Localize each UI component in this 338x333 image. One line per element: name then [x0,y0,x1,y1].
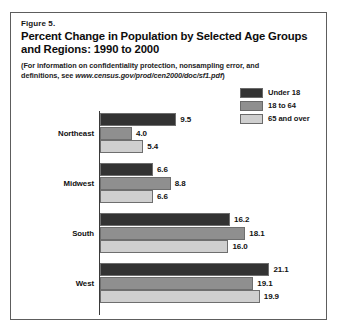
bar-value-label: 16.2 [234,215,249,224]
bar-west-under-18 [100,263,269,276]
region-axis-label: South [11,229,94,238]
bar-row: 6.6 [100,163,326,176]
bar-south-under-18 [100,213,230,226]
bar-row: 16.0 [100,240,326,253]
region-axis-label: Northeast [11,129,94,138]
bar-value-label: 6.6 [157,192,168,201]
bar-midwest-65-and-over [100,190,153,203]
bar-row: 9.5 [100,113,326,126]
bar-value-label: 4.0 [136,129,147,138]
bar-south-65-and-over [100,240,228,253]
figure-title: Percent Change in Population by Selected… [21,30,311,57]
bar-row: 16.2 [100,213,326,226]
bar-midwest-under-18 [100,163,153,176]
bar-west-65-and-over [100,290,260,303]
bar-south-18-to-64 [100,227,245,240]
bar-value-label: 5.4 [147,142,158,151]
bar-value-label: 8.8 [175,179,186,188]
figure-note-suffix: ) [222,71,224,80]
bar-row: 19.9 [100,290,326,303]
bar-row: 5.4 [100,140,326,153]
figure-note-url: www.census.gov/prod/cen2000/doc/sf1.pdf [75,71,222,80]
legend-item: Under 18 [240,87,318,99]
bar-row: 4.0 [100,127,326,140]
region-group: West21.119.119.9 [11,263,326,303]
bar-value-label: 19.1 [257,279,272,288]
bar-northeast-65-and-over [100,140,143,153]
bar-row: 6.6 [100,190,326,203]
bar-row: 18.1 [100,227,326,240]
bar-value-label: 21.1 [273,265,288,274]
region-group: South16.218.116.0 [11,213,326,253]
bar-value-label: 16.0 [232,242,247,251]
bar-row: 21.1 [100,263,326,276]
figure-frame: Figure 5. Percent Change in Population b… [10,12,327,320]
chart-plot-area: Northeast9.54.05.4Midwest6.68.86.6South1… [11,109,326,319]
bar-row: 19.1 [100,277,326,290]
bar-west-18-to-64 [100,277,253,290]
figure-number: Figure 5. [21,19,55,28]
figure-source-note: (For information on confidentiality prot… [21,61,281,80]
bar-value-label: 19.9 [264,292,279,301]
legend-item-label: Under 18 [268,88,300,97]
bar-value-label: 6.6 [157,165,168,174]
region-axis-label: Midwest [11,179,94,188]
bar-row: 8.8 [100,177,326,190]
region-group: Midwest6.68.86.6 [11,163,326,203]
bar-midwest-18-to-64 [100,177,171,190]
legend-swatch-icon [240,88,263,98]
bar-northeast-under-18 [100,113,176,126]
bar-value-label: 9.5 [180,115,191,124]
bar-northeast-18-to-64 [100,127,132,140]
region-axis-label: West [11,279,94,288]
bar-value-label: 18.1 [249,229,264,238]
region-group: Northeast9.54.05.4 [11,113,326,153]
